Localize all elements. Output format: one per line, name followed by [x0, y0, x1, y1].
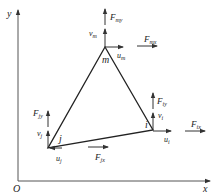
- y-axis-label: y: [6, 8, 12, 19]
- v-i-label: vi: [158, 111, 164, 121]
- triangle-element-diagram: y x O m vm Fmy um Fmx i vi Fiy ui Fix j …: [0, 0, 215, 195]
- node-j-label: j: [57, 133, 62, 144]
- F-jx-label: Fjx: [94, 152, 105, 163]
- u-m-label: um: [117, 51, 126, 61]
- F-my-label: Fmy: [109, 12, 123, 23]
- F-mx-label: Fmx: [143, 34, 157, 45]
- v-j-label: vj: [37, 129, 43, 139]
- origin-label: O: [13, 183, 20, 194]
- node-j: j vj Fjy uj Fjx: [32, 108, 108, 164]
- u-i-label: ui: [164, 135, 170, 145]
- triangle-element: [48, 47, 153, 148]
- node-i-label: i: [145, 119, 148, 130]
- node-m-label: m: [102, 54, 109, 65]
- x-axis-label: x: [202, 183, 208, 194]
- node-i: i vi Fiy ui Fix: [145, 93, 205, 145]
- F-jy-label: Fjy: [32, 108, 43, 119]
- F-ix-label: Fix: [190, 119, 201, 130]
- F-iy-label: Fiy: [156, 96, 167, 107]
- u-j-label: uj: [56, 154, 62, 164]
- v-m-label: vm: [89, 29, 98, 39]
